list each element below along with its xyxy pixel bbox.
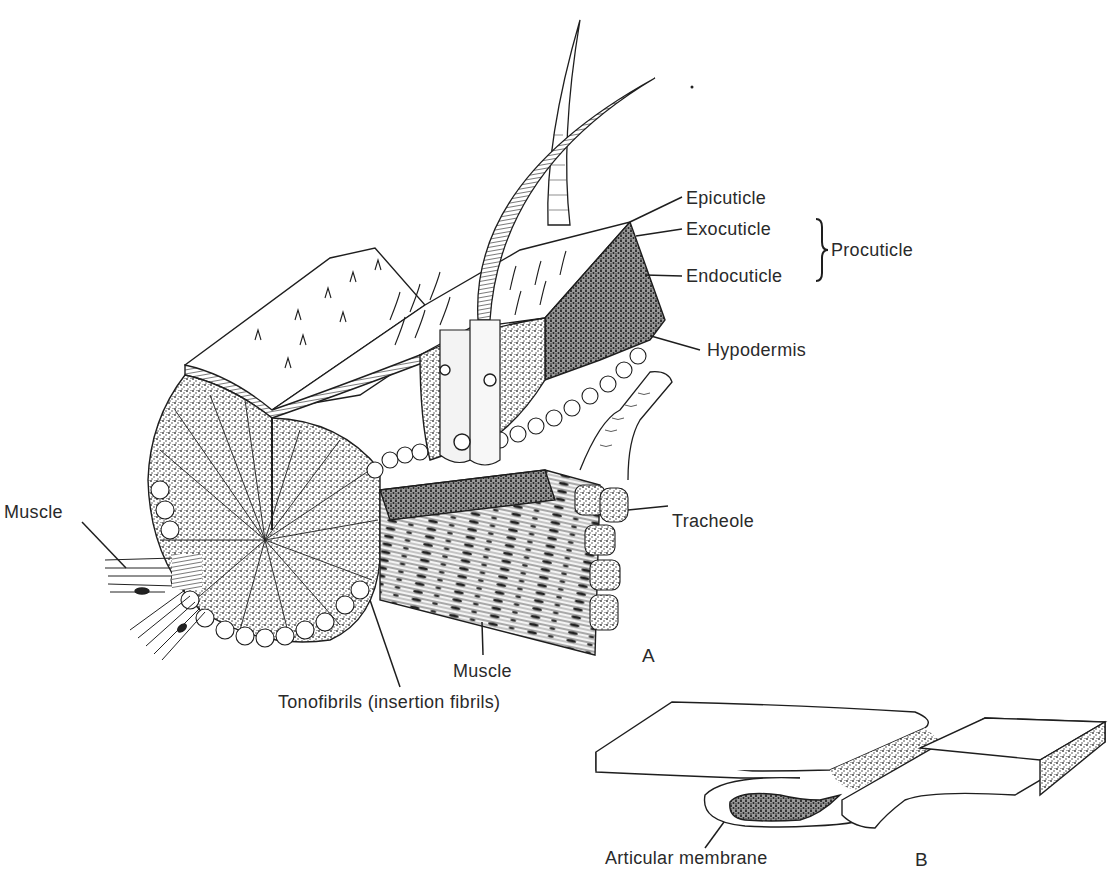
panel-b-drawing bbox=[596, 702, 1105, 848]
seta-straight bbox=[548, 20, 580, 225]
label-tonofibrils: Tonofibrils (insertion fibrils) bbox=[278, 692, 500, 713]
articular-membrane-leader bbox=[705, 822, 724, 848]
diagram-drawing bbox=[0, 0, 1113, 878]
tracheole-tube bbox=[580, 372, 672, 480]
label-hypodermis: Hypodermis bbox=[707, 340, 806, 361]
procuticle-brace bbox=[816, 219, 828, 281]
label-articular-membrane: Articular membrane bbox=[605, 848, 767, 869]
integument-diagram: Epicuticle Exocuticle Endocuticle Procut… bbox=[0, 0, 1113, 878]
label-exocuticle: Exocuticle bbox=[686, 219, 771, 240]
label-procuticle: Procuticle bbox=[831, 240, 913, 261]
label-tracheole: Tracheole bbox=[672, 511, 754, 532]
panel-letter-a: A bbox=[642, 645, 655, 667]
panel-letter-b: B bbox=[915, 849, 928, 871]
label-endocuticle: Endocuticle bbox=[686, 266, 782, 287]
label-epicuticle: Epicuticle bbox=[686, 188, 766, 209]
label-muscle-bottom: Muscle bbox=[453, 661, 512, 682]
label-muscle-left: Muscle bbox=[4, 502, 63, 523]
